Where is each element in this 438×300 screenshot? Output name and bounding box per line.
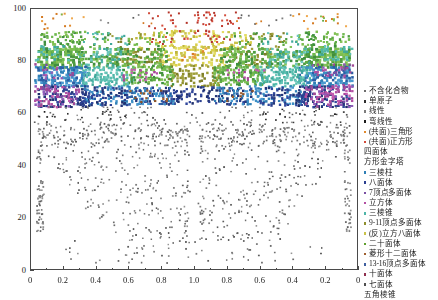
- x-tick: [63, 266, 64, 270]
- legend-marker-icon: [361, 86, 369, 96]
- legend-marker-icon: [361, 259, 369, 269]
- legend-item[interactable]: 弯线性: [361, 117, 438, 127]
- legend-label: 八面体: [369, 178, 393, 188]
- legend-item[interactable]: (共面)三角形: [361, 127, 438, 137]
- x-tick: [227, 266, 228, 270]
- legend-marker-icon: [361, 229, 369, 239]
- x-tick-label: 0.4: [83, 276, 109, 285]
- x-tick-minor: [243, 268, 244, 271]
- legend-label: 7顶点多面体: [369, 188, 412, 198]
- x-tick-label: 0.6: [115, 276, 141, 285]
- x-tick-minor: [178, 268, 179, 271]
- y-tick-label: 20: [0, 213, 26, 222]
- legend-label: 二十面体: [369, 239, 401, 249]
- x-tick-label: 0.2: [312, 276, 338, 285]
- x-tick: [30, 266, 31, 270]
- legend-marker-icon: [361, 127, 369, 137]
- legend-marker-icon: [361, 106, 369, 116]
- legend-item[interactable]: 立方体: [361, 198, 438, 208]
- legend-label: 四面体: [361, 147, 388, 157]
- x-tick-minor: [145, 268, 146, 271]
- legend-item[interactable]: 13-16顶点多面体: [361, 259, 438, 269]
- legend-label: 方形金字塔: [361, 157, 404, 167]
- legend-item[interactable]: 四面体: [361, 147, 438, 157]
- legend-label: (共面)正方形: [369, 137, 413, 147]
- legend-label: 13-16顶点多面体: [369, 259, 426, 269]
- scatter-canvas: [31, 9, 357, 269]
- legend-marker-icon: [361, 218, 369, 228]
- x-tick-minor: [276, 268, 277, 271]
- legend-item[interactable]: 不含化合物: [361, 86, 438, 96]
- legend-marker-icon: [361, 168, 369, 178]
- legend-label: 五角棱锥: [361, 290, 396, 300]
- legend-marker-icon: [361, 280, 369, 290]
- legend-marker-icon: [361, 137, 369, 147]
- y-tick-label: 0: [0, 266, 26, 275]
- legend-item[interactable]: 单原子: [361, 96, 438, 106]
- legend-item[interactable]: 二十面体: [361, 239, 438, 249]
- x-tick: [96, 266, 97, 270]
- x-tick: [161, 266, 162, 270]
- x-tick: [194, 266, 195, 270]
- legend-marker-icon: [361, 178, 369, 188]
- legend-label: (共面)三角形: [369, 127, 413, 137]
- x-tick: [325, 266, 326, 270]
- x-tick-label: 0.2: [50, 276, 76, 285]
- legend-item[interactable]: 7顶点多面体: [361, 188, 438, 198]
- x-tick-label: 0.4: [279, 276, 305, 285]
- y-tick-label: 60: [0, 108, 26, 117]
- x-tick-minor: [210, 268, 211, 271]
- legend-label: (反)立方八面体: [369, 229, 421, 239]
- y-tick: [30, 270, 34, 271]
- legend-marker-icon: [361, 208, 369, 218]
- x-tick: [260, 266, 261, 270]
- legend-item[interactable]: (共面)正方形: [361, 137, 438, 147]
- legend-label: 弯线性: [369, 117, 393, 127]
- legend-item[interactable]: 三棱柱: [361, 168, 438, 178]
- legend-label: 不含化合物: [369, 86, 409, 96]
- legend-label: 十面体: [369, 269, 393, 279]
- legend-item[interactable]: 9-11顶点多面体: [361, 218, 438, 228]
- legend-label: 单原子: [369, 96, 393, 106]
- legend-marker-icon: [361, 188, 369, 198]
- legend-marker-icon: [361, 117, 369, 127]
- legend-item[interactable]: 线性: [361, 106, 438, 116]
- legend-item[interactable]: 七面体: [361, 280, 438, 290]
- legend-label: 三棱锥: [369, 208, 393, 218]
- x-tick: [128, 266, 129, 270]
- legend-marker-icon: [361, 239, 369, 249]
- x-tick-minor: [309, 268, 310, 271]
- legend-item[interactable]: 菱形十二面体: [361, 249, 438, 259]
- x-tick-minor: [112, 268, 113, 271]
- legend-label: 菱形十二面体: [369, 249, 416, 259]
- legend-item[interactable]: 八面体: [361, 178, 438, 188]
- y-tick-label: 100: [0, 4, 26, 13]
- legend-label: 线性: [369, 106, 385, 116]
- x-tick: [358, 266, 359, 270]
- x-tick-minor: [46, 268, 47, 271]
- legend-label: 七面体: [369, 280, 393, 290]
- x-tick: [292, 266, 293, 270]
- x-tick-label: 0.6: [247, 276, 273, 285]
- legend: 不含化合物单原子线性弯线性(共面)三角形(共面)正方形四面体方形金字塔三棱柱八面…: [361, 86, 438, 300]
- y-tick-label: 80: [0, 56, 26, 65]
- legend-marker-icon: [361, 249, 369, 259]
- legend-item[interactable]: 三棱锥: [361, 208, 438, 218]
- legend-item[interactable]: (反)立方八面体: [361, 229, 438, 239]
- x-tick-label: 1.0: [181, 276, 207, 285]
- y-tick-label: 40: [0, 161, 26, 170]
- legend-marker-icon: [361, 269, 369, 279]
- plot-area: [30, 8, 358, 270]
- legend-label: 9-11顶点多面体: [369, 218, 422, 228]
- legend-item[interactable]: 方形金字塔: [361, 157, 438, 167]
- x-tick-label: 0: [17, 276, 43, 285]
- legend-item[interactable]: 十面体: [361, 269, 438, 279]
- legend-marker-icon: [361, 96, 369, 106]
- x-tick-label: 0.8: [148, 276, 174, 285]
- x-tick-minor: [342, 268, 343, 271]
- legend-item[interactable]: 五角棱锥: [361, 290, 438, 300]
- legend-marker-icon: [361, 198, 369, 208]
- legend-label: 立方体: [369, 198, 393, 208]
- legend-label: 三棱柱: [369, 168, 393, 178]
